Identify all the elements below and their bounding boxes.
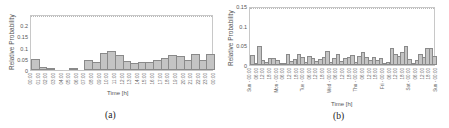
x-tick-label: 06:00: [387, 68, 392, 128]
x-tick-label: 12:00: [420, 68, 425, 128]
x-tick-label: Wed - 00:00: [327, 68, 332, 128]
x-tick-label: 06:00: [413, 68, 418, 128]
x-tick-label: Thu - 00:00: [353, 68, 358, 128]
y-tick-label: 0.05: [227, 43, 247, 49]
x-tick-label: 15:00: [142, 73, 147, 128]
top-border: [31, 16, 212, 17]
x-tick-label: 02:00: [43, 73, 48, 128]
x-tick-label: 18:00: [373, 68, 378, 128]
x-tick-label: 12:00: [260, 68, 265, 128]
x-tick-label: 12:00: [367, 68, 372, 128]
x-tick-label: 06:00: [280, 68, 285, 128]
x-tick-label: Mon - 00:00: [274, 68, 279, 128]
x-tick-label: 12:00: [120, 73, 125, 128]
x-tick-label: 00:00: [28, 73, 33, 128]
x-tick-label: 06:00: [74, 73, 79, 128]
x-axis-label: Time [h]: [107, 90, 128, 96]
x-tick-label: 21:00: [188, 73, 193, 128]
y-tick-label: 0: [227, 63, 247, 69]
x-tick-label: 05:00: [66, 73, 71, 128]
y-tick-label: 0.15: [8, 34, 28, 40]
x-tick-label: 06:00: [254, 68, 259, 128]
x-tick-label: 23:00: [203, 73, 208, 128]
x-tick-label: 18:00: [267, 68, 272, 128]
x-tick-label: 22:00: [196, 73, 201, 128]
x-tick-label: 06:00: [307, 68, 312, 128]
x-tick-label: 12:00: [287, 68, 292, 128]
x-tick-label: 18:00: [347, 68, 352, 128]
top-border: [250, 8, 434, 9]
y-tick-label: 0.1: [8, 46, 28, 52]
y-tick-label: 0: [8, 68, 28, 74]
y-tick-label: 0.1: [227, 24, 247, 30]
x-tick-label: 12:00: [393, 68, 398, 128]
bar: [432, 56, 437, 65]
x-tick-label: 00:00: [211, 73, 216, 128]
x-tick-label: 09:00: [97, 73, 102, 128]
x-axis-label: Time [h]: [331, 101, 352, 107]
y-tick-label: 0.05: [8, 57, 28, 63]
x-tick-label: 07:00: [81, 73, 86, 128]
x-tick-label: 18:00: [165, 73, 170, 128]
x-tick-label: Fri - 00:00: [380, 68, 385, 128]
x-tick-label: 18:00: [294, 68, 299, 128]
x-tick-label: 13:00: [127, 73, 132, 128]
figure-caption: (b): [333, 111, 344, 121]
plot-area: [30, 15, 213, 71]
x-tick-label: 04:00: [59, 73, 64, 128]
x-tick-label: 18:00: [320, 68, 325, 128]
x-tick-label: 08:00: [89, 73, 94, 128]
x-tick-label: 19:00: [173, 73, 178, 128]
x-tick-label: Tue - 00:00: [300, 68, 305, 128]
x-tick-label: Sat - 00:00: [406, 68, 411, 128]
y-axis-label: Relative Probability: [227, 10, 234, 66]
x-tick-label: 18:00: [426, 68, 431, 128]
figure-caption: (a): [105, 110, 116, 120]
plot-area: [249, 7, 435, 66]
x-tick-label: 20:00: [181, 73, 186, 128]
chart-panel-b: Relative Probability 00.050.10.15 Sun - …: [225, 0, 449, 128]
x-tick-label: 18:00: [400, 68, 405, 128]
bar: [206, 54, 215, 70]
x-tick-label: Sun - 00:00: [247, 68, 252, 128]
x-tick-label: 06:00: [360, 68, 365, 128]
x-tick-label: 14:00: [135, 73, 140, 128]
x-tick-label: 17:00: [158, 73, 163, 128]
x-tick-label: 16:00: [150, 73, 155, 128]
y-tick-label: 0.15: [227, 4, 247, 10]
x-tick-label: 01:00: [36, 73, 41, 128]
y-tick-label: 0.2: [8, 23, 28, 29]
x-tick-label: Sun - 00:00: [433, 68, 438, 128]
x-tick-label: 12:00: [313, 68, 318, 128]
x-tick-label: 03:00: [51, 73, 56, 128]
chart-panel-a: Relative Probability 00.050.10.150.2 00:…: [0, 0, 225, 128]
